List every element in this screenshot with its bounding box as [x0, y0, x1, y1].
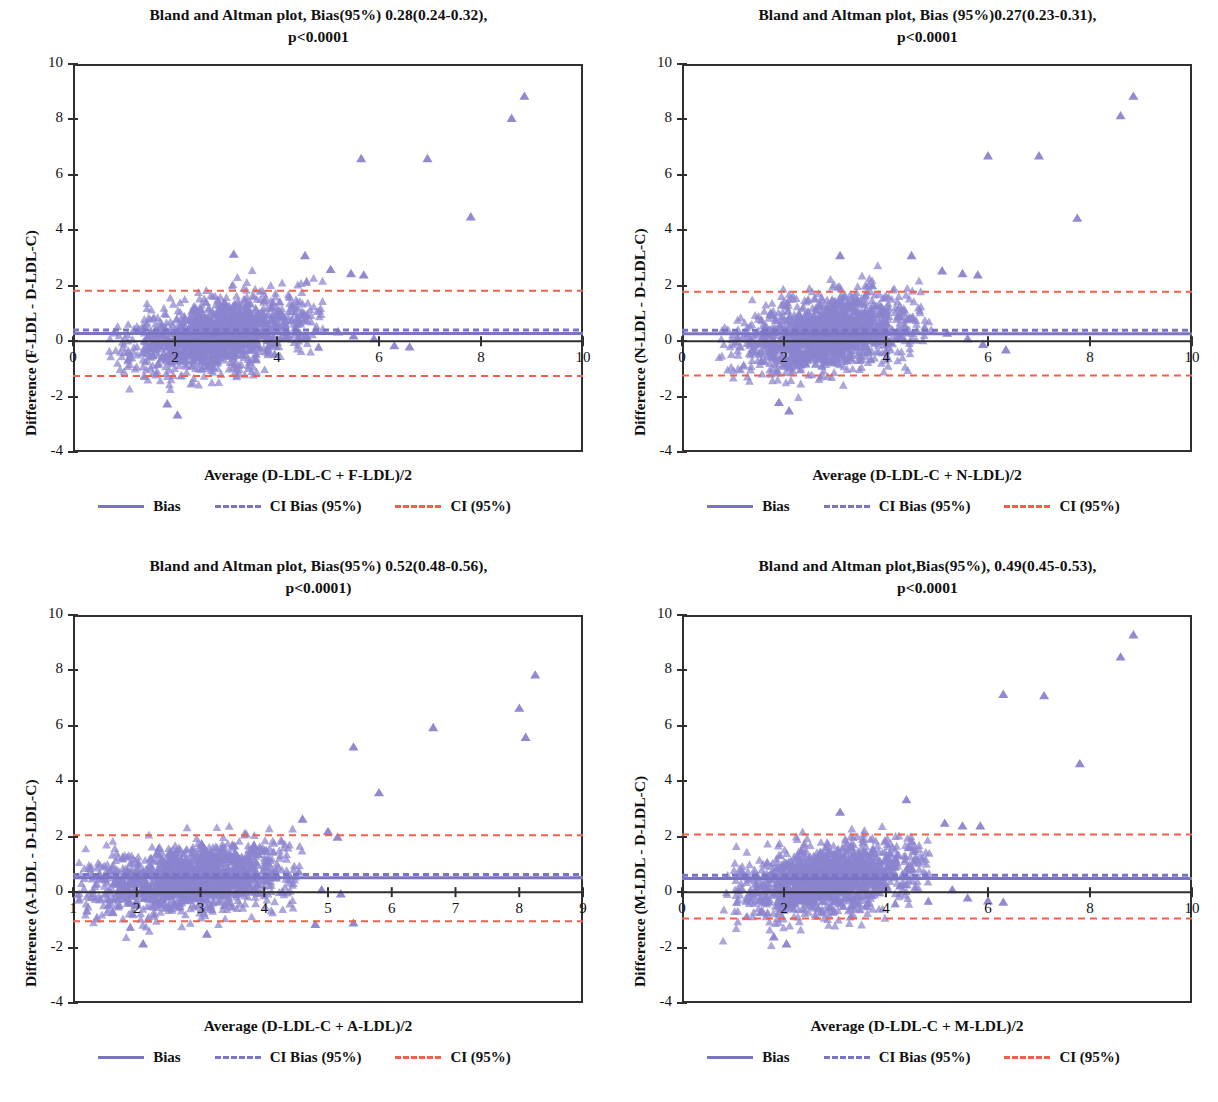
y-tick-mark [68, 780, 78, 782]
legend-ci-bias: CI Bias (95%) [215, 498, 362, 515]
legend: BiasCI Bias (95%)CI (95%) [0, 498, 609, 515]
legend-ci: CI (95%) [1004, 1049, 1119, 1066]
y-tick-label: 6 [21, 716, 63, 733]
y-axis-label: Difference (F-LDL - D-LDL-C) [22, 230, 40, 436]
panel-n-ldl: Bland and Altman plot, Bias (95%)0.27(0.… [609, 0, 1218, 551]
legend-line-dashed-icon [395, 505, 441, 508]
panel-title-line2: p<0.0001 [649, 26, 1206, 48]
legend-label: Bias [153, 1049, 181, 1066]
x-tick-label: 2 [764, 900, 804, 917]
y-tick-mark [68, 891, 78, 893]
x-tick-label: 4 [866, 349, 906, 366]
x-tick-label: 5 [308, 900, 348, 917]
y-tick-mark [68, 451, 78, 453]
legend-line-dashed-icon [1004, 505, 1050, 508]
legend-ci-bias: CI Bias (95%) [824, 1049, 971, 1066]
legend-line-solid-icon [98, 1056, 144, 1059]
y-tick-label: -4 [630, 993, 672, 1010]
panel-title-line2: p<0.0001 [40, 26, 597, 48]
panel-title-line1: Bland and Altman plot, Bias (95%)0.27(0.… [758, 6, 1096, 23]
plot-area [73, 615, 583, 1003]
y-tick-mark [677, 118, 687, 120]
panel-title-line1: Bland and Altman plot, Bias(95%) 0.28(0.… [149, 6, 487, 23]
legend-line-dashed-icon [1004, 1056, 1050, 1059]
y-tick-label: 8 [21, 660, 63, 677]
legend: BiasCI Bias (95%)CI (95%) [609, 498, 1218, 515]
legend-label: CI Bias (95%) [270, 1049, 362, 1066]
legend-label: CI Bias (95%) [879, 1049, 971, 1066]
x-tick-label: 1 [53, 900, 93, 917]
legend: BiasCI Bias (95%)CI (95%) [609, 1049, 1218, 1066]
plot-area [73, 64, 583, 452]
x-tick-label: 8 [461, 349, 501, 366]
y-tick-mark [68, 118, 78, 120]
y-tick-mark [68, 229, 78, 231]
legend-ci: CI (95%) [395, 498, 510, 515]
y-tick-label: 8 [630, 660, 672, 677]
legend-label: CI (95%) [450, 1049, 510, 1066]
legend-line-solid-icon [707, 1056, 753, 1059]
y-tick-mark [68, 1002, 78, 1004]
legend: BiasCI Bias (95%)CI (95%) [0, 1049, 609, 1066]
y-tick-mark [677, 836, 687, 838]
legend-label: CI Bias (95%) [879, 498, 971, 515]
y-tick-mark [677, 396, 687, 398]
panel-title-line2: p<0.0001 [649, 577, 1206, 599]
y-tick-mark [677, 947, 687, 949]
y-tick-mark [68, 63, 78, 65]
y-tick-mark [677, 669, 687, 671]
y-tick-mark [68, 614, 78, 616]
legend-ci: CI (95%) [1004, 498, 1119, 515]
x-tick-label: 7 [436, 900, 476, 917]
y-tick-mark [68, 725, 78, 727]
y-tick-mark [677, 285, 687, 287]
scatter-points [105, 92, 529, 419]
y-tick-mark [68, 174, 78, 176]
x-axis-label: Average (D-LDL-C + N-LDL)/2 [642, 466, 1192, 484]
y-tick-mark [677, 63, 687, 65]
x-axis-label: Average (D-LDL-C + F-LDL)/2 [33, 466, 583, 484]
y-tick-mark [677, 780, 687, 782]
x-tick-label: 4 [244, 900, 284, 917]
panel-title: Bland and Altman plot, Bias(95%) 0.52(0.… [40, 555, 597, 600]
y-tick-label: -4 [630, 442, 672, 459]
legend-line-dashed-icon [824, 505, 870, 508]
legend-bias: Bias [707, 1049, 790, 1066]
y-tick-mark [677, 614, 687, 616]
x-tick-label: 10 [563, 349, 603, 366]
legend-line-dashed-icon [215, 1056, 261, 1059]
y-tick-label: 10 [21, 54, 63, 71]
y-tick-mark [677, 1002, 687, 1004]
legend-line-solid-icon [707, 505, 753, 508]
y-tick-label: 6 [630, 716, 672, 733]
panel-title: Bland and Altman plot, Bias(95%) 0.28(0.… [40, 4, 597, 49]
x-tick-label: 6 [359, 349, 399, 366]
legend-label: CI (95%) [450, 498, 510, 515]
legend-label: CI Bias (95%) [270, 498, 362, 515]
plot-canvas [73, 615, 583, 1003]
legend-label: Bias [762, 498, 790, 515]
y-tick-mark [68, 836, 78, 838]
y-tick-mark [677, 725, 687, 727]
legend-ci-bias: CI Bias (95%) [824, 498, 971, 515]
legend-bias: Bias [98, 1049, 181, 1066]
x-tick-label: 3 [181, 900, 221, 917]
legend-label: CI (95%) [1059, 1049, 1119, 1066]
x-axis-label: Average (D-LDL-C + A-LDL)/2 [33, 1017, 583, 1035]
x-tick-label: 8 [1070, 349, 1110, 366]
plot-area [682, 64, 1192, 452]
y-tick-label: -4 [21, 442, 63, 459]
x-tick-label: 4 [257, 349, 297, 366]
x-tick-label: 0 [662, 900, 702, 917]
legend-label: Bias [762, 1049, 790, 1066]
x-tick-label: 2 [155, 349, 195, 366]
x-tick-label: 8 [1070, 900, 1110, 917]
y-tick-mark [677, 451, 687, 453]
x-tick-label: 2 [764, 349, 804, 366]
y-tick-mark [68, 340, 78, 342]
y-tick-label: 6 [630, 165, 672, 182]
x-tick-label: 6 [372, 900, 412, 917]
x-tick-label: 4 [866, 900, 906, 917]
x-tick-label: 9 [563, 900, 603, 917]
plot-canvas [682, 615, 1192, 1003]
